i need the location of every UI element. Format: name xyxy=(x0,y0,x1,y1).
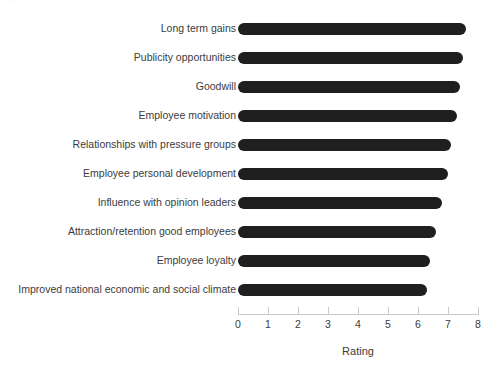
x-tick-mark xyxy=(448,307,449,315)
bar xyxy=(238,255,430,267)
category-label: Publicity opportunities xyxy=(134,43,236,72)
x-tick-label: 1 xyxy=(258,318,278,330)
category-label: Employee motivation xyxy=(139,101,236,130)
bar xyxy=(238,52,463,64)
bar xyxy=(238,284,427,296)
bar xyxy=(238,81,460,93)
bar xyxy=(238,110,457,122)
category-label: Improved national economic and social cl… xyxy=(18,275,236,304)
bar-row: Goodwill xyxy=(0,72,492,101)
bar xyxy=(238,226,436,238)
x-tick-label: 0 xyxy=(228,318,248,330)
category-label: Relationships with pressure groups xyxy=(73,130,236,159)
x-tick-label: 3 xyxy=(318,318,338,330)
x-axis-title: Rating xyxy=(238,345,478,357)
x-tick-mark xyxy=(328,307,329,315)
bar-row: Employee loyalty xyxy=(0,246,492,275)
bar-row: Improved national economic and social cl… xyxy=(0,275,492,304)
x-tick-label: 2 xyxy=(288,318,308,330)
category-label: Employee loyalty xyxy=(157,246,236,275)
x-tick-label: 7 xyxy=(438,318,458,330)
category-label: Long term gains xyxy=(161,14,236,43)
x-tick-mark xyxy=(268,307,269,315)
bar xyxy=(238,168,448,180)
bar-row: Influence with opinion leaders xyxy=(0,188,492,217)
x-tick-mark xyxy=(238,307,239,315)
x-tick-label: 6 xyxy=(408,318,428,330)
bar xyxy=(238,23,466,35)
x-tick-mark xyxy=(358,307,359,315)
x-tick-label: 4 xyxy=(348,318,368,330)
x-tick-mark xyxy=(298,307,299,315)
x-tick-label: 5 xyxy=(378,318,398,330)
bar xyxy=(238,197,442,209)
x-tick-mark xyxy=(388,307,389,315)
category-label: Goodwill xyxy=(196,72,236,101)
x-tick-mark xyxy=(418,307,419,315)
category-label: Employee personal development xyxy=(83,159,236,188)
bar-row: Relationships with pressure groups xyxy=(0,130,492,159)
x-tick-label: 8 xyxy=(468,318,488,330)
plot-area: Long term gainsPublicity opportunitiesGo… xyxy=(0,0,492,374)
x-tick-mark xyxy=(478,307,479,315)
category-label: Influence with opinion leaders xyxy=(98,188,236,217)
bar-row: Publicity opportunities xyxy=(0,43,492,72)
bar xyxy=(238,139,451,151)
bar-row: Attraction/retention good employees xyxy=(0,217,492,246)
bar-row: Long term gains xyxy=(0,14,492,43)
bar-row: Employee personal development xyxy=(0,159,492,188)
bar-row: Employee motivation xyxy=(0,101,492,130)
horizontal-bar-chart: ... Long term gainsPublicity opportuniti… xyxy=(0,0,492,374)
category-label: Attraction/retention good employees xyxy=(68,217,236,246)
